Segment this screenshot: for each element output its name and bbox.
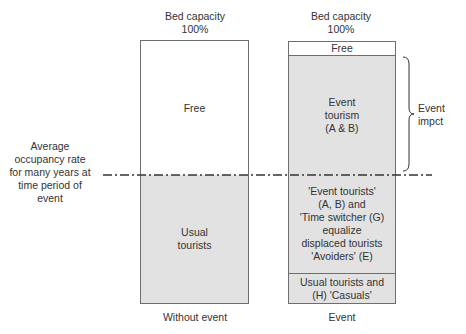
without-event-label: Without event — [135, 311, 255, 324]
avg-line5: event — [0, 192, 100, 205]
avg-line4: time period of — [0, 179, 100, 192]
event-impact-brace — [403, 57, 414, 171]
avg-line3: for many years at — [0, 166, 100, 179]
event-impact-line1: Event — [418, 102, 462, 115]
event-impact-label: Event impct — [418, 102, 462, 128]
avg-line1: Average — [0, 140, 100, 153]
avg-line2: occupancy rate — [0, 153, 100, 166]
event-label: Event — [282, 311, 402, 324]
average-occupancy-label: Average occupancy rate for many years at… — [0, 140, 100, 205]
event-impact-line2: impct — [418, 115, 462, 128]
